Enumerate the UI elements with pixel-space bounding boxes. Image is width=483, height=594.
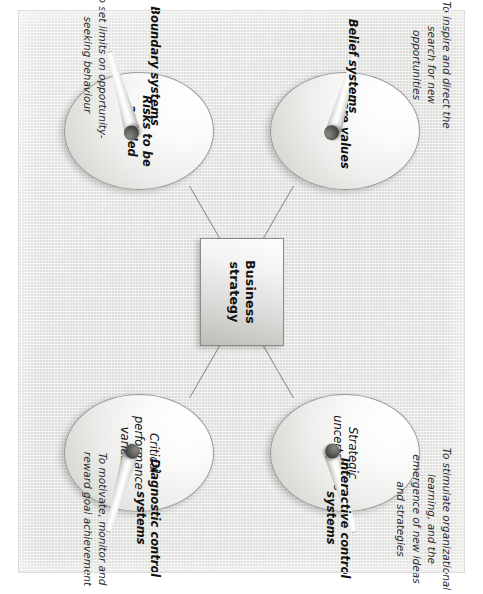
center-node-business-strategy[interactable]: Business strategy — [200, 238, 284, 346]
diagram-stage: Business strategy Core values Belief sys… — [22, 12, 462, 572]
label-interactive-control-systems: Interactive control systems — [323, 448, 352, 588]
diagram-page: Business strategy Core values Belief sys… — [0, 0, 483, 594]
label-belief-systems: Belief systems — [345, 0, 359, 136]
caption-belief-systems: To inspire and direct the search for new… — [408, 0, 454, 140]
caption-boundary-systems: To set limits on opportunity-seeking beh… — [79, 0, 109, 140]
label-boundary-systems: Boundary systems — [147, 0, 161, 136]
center-node-label: Business strategy — [226, 239, 257, 345]
caption-interactive-control-systems: To stimulate organizational learning, an… — [393, 444, 454, 594]
caption-diagnostic-control-systems: To motivate, monitor and reward goal ach… — [79, 444, 109, 594]
connector-belief — [263, 185, 294, 237]
diagram-plate: Business strategy Core values Belief sys… — [18, 10, 465, 573]
connector-diagnostic — [189, 345, 220, 397]
label-diagnostic-control-systems: Diagnostic control systems — [133, 448, 162, 588]
connector-interactive — [263, 345, 294, 397]
connector-boundary — [189, 185, 220, 237]
